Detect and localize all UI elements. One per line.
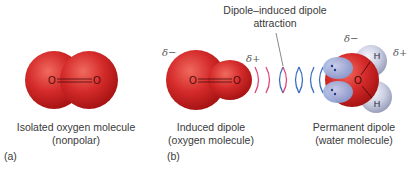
diagram-canvas: O O O O O H H: [0, 0, 414, 173]
svg-text:O: O: [93, 75, 101, 86]
svg-text:O: O: [48, 75, 56, 86]
svg-text:O: O: [233, 75, 241, 86]
caption-induced-dipole: Induced dipole (oxygen molecule): [163, 121, 259, 147]
delta-plus-water: δ+: [393, 47, 407, 58]
caption-permanent-dipole: Permanent dipole (water molecule): [306, 121, 402, 147]
svg-text:O: O: [189, 75, 197, 86]
isolated-oxygen-molecule: O O: [25, 51, 118, 109]
panel-label-b: (b): [167, 150, 180, 162]
dipole-attraction-arcs: [255, 67, 323, 93]
panel-label-a: (a): [4, 150, 17, 162]
label-leader-line: [276, 33, 283, 66]
delta-minus-water: δ−: [344, 33, 358, 44]
interaction-label: Dipole–induced dipole attraction: [216, 4, 334, 30]
delta-plus-induced: δ+: [246, 53, 260, 64]
svg-text:O: O: [354, 75, 362, 86]
svg-text:H: H: [374, 51, 381, 61]
delta-minus-induced: δ−: [162, 47, 176, 58]
caption-isolated-oxygen: Isolated oxygen molecule (nonpolar): [10, 121, 142, 147]
water-molecule: O H H: [323, 45, 392, 113]
svg-text:H: H: [374, 99, 381, 109]
induced-dipole-oxygen-molecule: O O: [166, 50, 252, 110]
